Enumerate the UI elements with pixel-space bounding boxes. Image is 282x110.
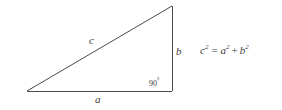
pythagorean-equation: c2=a2+b2 xyxy=(200,45,249,56)
hypotenuse-label: c xyxy=(89,35,94,46)
degree-symbol: ° xyxy=(157,77,159,83)
equation-plus-sign: + xyxy=(230,44,240,56)
equation-b-exponent: 2 xyxy=(245,43,249,51)
pythagorean-theorem-figure: c b a 90° c2=a2+b2 xyxy=(0,0,282,110)
right-angle-value: 90 xyxy=(149,79,157,88)
equation-equals-sign: = xyxy=(208,44,220,56)
vertical-leg-label: b xyxy=(176,46,182,57)
base-label: a xyxy=(95,94,101,105)
right-angle-label: 90° xyxy=(149,77,159,88)
